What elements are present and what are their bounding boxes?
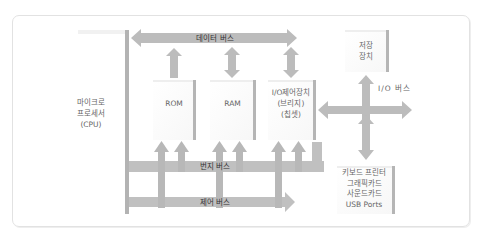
rom-label: ROM — [153, 98, 195, 109]
peripherals-line2: 그래픽카드 — [335, 179, 393, 190]
io-data-arrow — [283, 47, 299, 78]
cpu-label-line2: 프로세서 — [66, 108, 116, 119]
ram-label: RAM — [210, 98, 255, 109]
ram-data-arrow — [224, 47, 240, 78]
peripherals-line3: 사운드카드 — [335, 189, 393, 200]
cpu-label-line3: (CPU) — [66, 119, 116, 130]
rom-box — [153, 80, 196, 140]
peripherals-line1: 키보드 프린터 — [335, 168, 393, 179]
address-bus-label: 번지 버스 — [190, 161, 240, 172]
peripherals-label: 키보드 프린터 그래픽카드 사운드카드 USB Ports — [335, 168, 393, 210]
data-bus-label: 데이터 버스 — [180, 33, 250, 44]
cpu-label-line1: 마이크로 — [66, 97, 116, 108]
rom-data-arrow — [166, 48, 182, 78]
io-controller-label: I/O제어장치 (브리지) (칩셋) — [265, 87, 317, 120]
io-controller-line1: I/O제어장치 — [265, 87, 317, 98]
storage-line2: 장치 — [345, 51, 387, 62]
cpu-label: 마이크로 프로세서 (CPU) — [66, 97, 116, 130]
storage-label: 저장 장치 — [345, 40, 387, 62]
io-bus-label: I/O 버스 — [378, 83, 428, 94]
peripherals-line4: USB Ports — [335, 200, 393, 211]
control-bus-label: 제어 버스 — [190, 197, 240, 208]
ram-box — [210, 80, 256, 140]
io-controller-line2: (브리지) — [265, 98, 317, 109]
io-controller-line3: (칩셋) — [265, 109, 317, 120]
storage-line1: 저장 — [345, 40, 387, 51]
